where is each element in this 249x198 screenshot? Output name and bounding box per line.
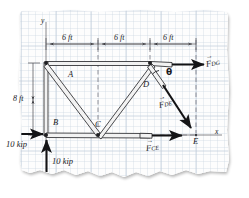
load-label-10kip-vertical: 10 kip — [52, 157, 73, 166]
angle-label-theta: θ — [166, 68, 172, 77]
dimension-label-6ft-3: 6 ft — [163, 34, 173, 42]
force-label-FCE: → FCE — [146, 143, 160, 153]
dimension-label-8ft: 8 ft — [13, 95, 23, 103]
figure-canvas: y x 6 ft 6 ft 6 ft 8 ft A B C D E θ → FD… — [0, 0, 249, 198]
force-sub-FDE: DE — [164, 100, 173, 108]
force-sub-FDG: DG — [211, 59, 221, 67]
dimension-label-6ft-2: 6 ft — [114, 34, 124, 42]
dimension-label-6ft-1: 6 ft — [62, 34, 72, 42]
node-label-E: E — [193, 137, 198, 146]
axis-label-y: y — [41, 17, 44, 25]
node-label-B: B — [53, 118, 58, 127]
graph-paper-sheet — [0, 0, 249, 198]
force-sub-FCE: CE — [151, 145, 159, 152]
node-label-C: C — [95, 120, 101, 129]
node-label-A: A — [68, 70, 73, 79]
load-label-10kip-horizontal: 10 kip — [6, 140, 27, 149]
node-label-D: D — [143, 80, 149, 89]
axis-label-x: x — [215, 128, 218, 136]
